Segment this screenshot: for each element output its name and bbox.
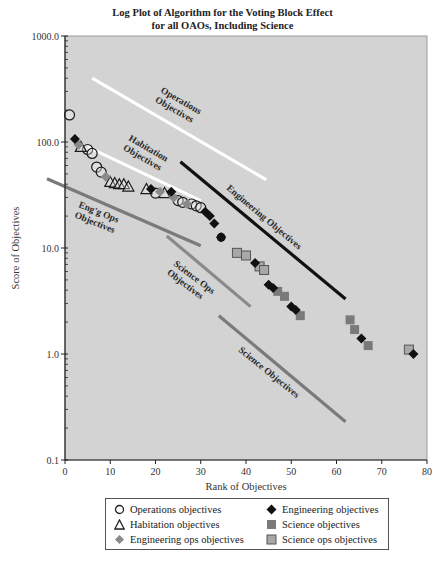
science-ops-point <box>242 251 251 260</box>
x-tick-label: 80 <box>422 466 432 477</box>
legend: Operations objectives Engineering object… <box>105 498 389 550</box>
circle-open-icon <box>114 504 125 515</box>
science-point <box>364 341 373 350</box>
legend-item-engineering-ops: Engineering ops objectives <box>114 534 244 545</box>
y-axis-label: Score of Objectives <box>10 207 21 290</box>
diamond-gray-icon <box>114 534 125 545</box>
legend-item-science: Science objectives <box>266 519 360 530</box>
legend-item-habitation: Habitation objectives <box>114 519 220 530</box>
legend-item-science-ops: Science ops objectives <box>266 534 377 545</box>
science-point <box>280 292 289 301</box>
legend-label: Operations objectives <box>130 504 221 515</box>
square-gray-icon <box>266 519 277 530</box>
x-tick-label: 0 <box>63 466 68 477</box>
science-ops-point <box>232 248 241 257</box>
operations-point <box>65 110 75 120</box>
y-tick-label: 1.0 <box>47 349 60 360</box>
x-tick-label: 40 <box>241 466 251 477</box>
engineering-point <box>217 233 226 242</box>
science-point <box>350 325 359 334</box>
x-tick-label: 70 <box>377 466 387 477</box>
operations-point <box>87 148 97 158</box>
plot-area <box>65 36 427 460</box>
x-tick-label: 50 <box>286 466 296 477</box>
legend-item-engineering: Engineering objectives <box>266 504 379 515</box>
science-point <box>346 315 355 324</box>
x-axis-label: Rank of Objectives <box>205 481 286 492</box>
x-tick-label: 30 <box>196 466 206 477</box>
chart-svg: OperationsObjectivesHabitationObjectives… <box>0 0 445 500</box>
y-tick-label: 1000.0 <box>32 31 60 42</box>
legend-label: Science objectives <box>282 519 360 530</box>
y-tick-label: 10.0 <box>42 243 60 254</box>
x-tick-label: 10 <box>105 466 115 477</box>
legend-label: Habitation objectives <box>130 519 220 530</box>
legend-item-operations: Operations objectives <box>114 504 221 515</box>
y-tick-label: 100.0 <box>37 137 60 148</box>
triangle-open-icon <box>114 519 125 530</box>
plot-background <box>65 36 427 460</box>
legend-label: Engineering ops objectives <box>130 534 244 545</box>
y-tick-label: 0.1 <box>47 455 60 466</box>
science-ops-point <box>260 266 269 275</box>
diamond-black-icon <box>266 504 277 515</box>
square-outlined-icon <box>266 534 277 545</box>
legend-label: Engineering objectives <box>282 504 379 515</box>
legend-label: Science ops objectives <box>282 534 377 545</box>
x-tick-label: 20 <box>151 466 161 477</box>
x-tick-label: 60 <box>332 466 342 477</box>
